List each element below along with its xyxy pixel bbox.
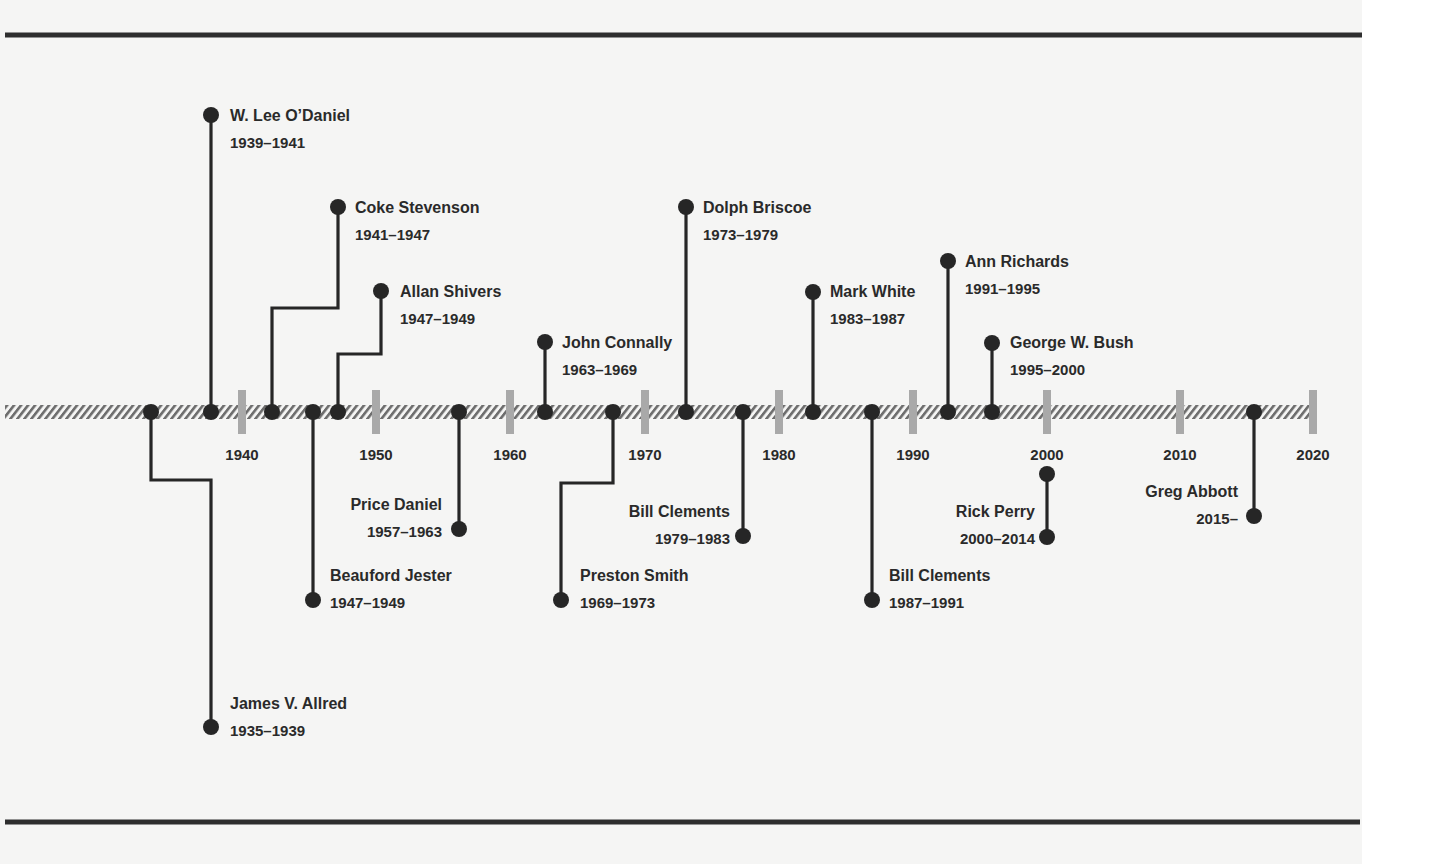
governor-name: Preston Smith [580,567,688,584]
connector-line [151,412,211,727]
connector-line [272,207,338,412]
governor-name: Coke Stevenson [355,199,479,216]
label-dot [678,199,694,215]
governor-term-years: 1991–1995 [965,280,1040,297]
governor-name: Greg Abbott [1145,483,1238,500]
tick-mark-2020 [1309,390,1317,434]
governor-label-james-v-allred-1935: James V. Allred1935–1939 [230,695,347,739]
governor-marker-rick-perry-2000 [1039,466,1055,545]
axis-dot [805,404,821,420]
governor-marker-w-lee-o-daniel-1939 [203,107,219,420]
governor-label-w-lee-o-daniel-1939: W. Lee O’Daniel1939–1941 [230,107,350,151]
axis-dot [678,404,694,420]
axis-dot [735,404,751,420]
axis-dot [984,404,1000,420]
governor-name: Dolph Briscoe [703,199,812,216]
tick-mark-2000 [1043,390,1051,434]
governors-timeline-diagram: 194019501960197019801990200020102020 Jam… [0,0,1446,864]
governor-marker-james-v-allred-1935 [143,404,219,735]
axis-dot [451,404,467,420]
governor-term-years: 1995–2000 [1010,361,1085,378]
label-dot [984,335,1000,351]
year-ticks: 194019501960197019801990200020102020 [225,390,1329,463]
top-rule-line [5,33,1362,38]
governor-label-mark-white-1983: Mark White1983–1987 [830,283,915,327]
tick-mark-2010 [1176,390,1184,434]
governor-marker-bill-clements-1987 [864,404,880,608]
tick-mark-1990 [909,390,917,434]
label-dot [203,719,219,735]
governor-name: Beauford Jester [330,567,452,584]
governor-name: W. Lee O’Daniel [230,107,350,124]
tick-label-1970: 1970 [628,446,661,463]
label-dot [1039,529,1055,545]
governor-term-years: 1969–1973 [580,594,655,611]
governor-term-years: 1941–1947 [355,226,430,243]
governor-marker-john-connally-1963 [537,334,553,420]
governor-name: James V. Allred [230,695,347,712]
governor-term-years: 1979–1983 [655,530,730,547]
governor-label-john-connally-1963: John Connally1963–1969 [562,334,672,378]
label-dot [305,592,321,608]
governor-label-greg-abbott-2015: Greg Abbott2015– [1145,483,1238,527]
tick-mark-1960 [506,390,514,434]
governor-marker-mark-white-1983 [805,284,821,420]
axis-dot [305,404,321,420]
axis-dot [143,404,159,420]
axis-dot [864,404,880,420]
label-dot [451,521,467,537]
label-dot [373,283,389,299]
axis-dot [940,404,956,420]
governor-marker-george-w-bush-1995 [984,335,1000,420]
governor-name: Bill Clements [889,567,990,584]
governor-label-bill-clements-1979: Bill Clements1979–1983 [629,503,730,547]
governor-term-years: 1939–1941 [230,134,305,151]
governor-marker-price-daniel-1957 [451,404,467,537]
governor-name: Allan Shivers [400,283,501,300]
label-dot [735,528,751,544]
tick-label-1980: 1980 [762,446,795,463]
governor-term-years: 1987–1991 [889,594,964,611]
governor-label-preston-smith-1969: Preston Smith1969–1973 [580,567,688,611]
label-dot [553,592,569,608]
tick-mark-1940 [238,390,246,434]
governor-marker-coke-stevenson-1941 [264,199,346,420]
governor-label-ann-richards-1991: Ann Richards1991–1995 [965,253,1069,297]
governor-marker-greg-abbott-2015 [1246,404,1262,524]
governor-label-rick-perry-2000: Rick Perry2000–2014 [956,503,1036,547]
governor-term-years: 1983–1987 [830,310,905,327]
governor-term-years: 1947–1949 [400,310,475,327]
tick-label-1950: 1950 [359,446,392,463]
governor-name: Price Daniel [350,496,442,513]
governor-label-bill-clements-1987: Bill Clements1987–1991 [889,567,990,611]
tick-label-2010: 2010 [1163,446,1196,463]
tick-label-2000: 2000 [1030,446,1063,463]
label-dot [864,592,880,608]
governor-label-price-daniel-1957: Price Daniel1957–1963 [350,496,442,540]
tick-label-1990: 1990 [896,446,929,463]
governor-name: Rick Perry [956,503,1035,520]
governor-marker-bill-clements-1979 [735,404,751,544]
governor-label-coke-stevenson-1941: Coke Stevenson1941–1947 [355,199,479,243]
label-dot [940,253,956,269]
tick-label-1960: 1960 [493,446,526,463]
governor-term-years: 1935–1939 [230,722,305,739]
governor-marker-dolph-briscoe-1973 [678,199,694,420]
timeline-axis: 194019501960197019801990200020102020 [5,390,1330,463]
axis-dot [1039,466,1055,482]
governor-label-george-w-bush-1995: George W. Bush1995–2000 [1010,334,1134,378]
label-dot [537,334,553,350]
tick-mark-1950 [372,390,380,434]
axis-dot [537,404,553,420]
tick-mark-1980 [775,390,783,434]
governor-term-years: 1947–1949 [330,594,405,611]
axis-dot [264,404,280,420]
hatched-axis-band [5,405,1313,419]
tick-mark-1970 [641,390,649,434]
axis-dot [1246,404,1262,420]
governor-name: Ann Richards [965,253,1069,270]
axis-dot [203,404,219,420]
governor-term-years: 1963–1969 [562,361,637,378]
governor-name: Bill Clements [629,503,730,520]
tick-label-2020: 2020 [1296,446,1329,463]
